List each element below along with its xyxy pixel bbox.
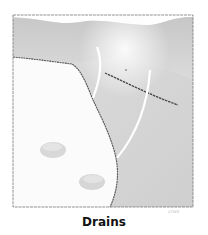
figure-caption: Drains <box>0 215 208 229</box>
artist-signature: c/ws <box>168 208 179 214</box>
drains-illustration <box>0 0 208 235</box>
figure: c/ws Drains <box>0 0 208 235</box>
